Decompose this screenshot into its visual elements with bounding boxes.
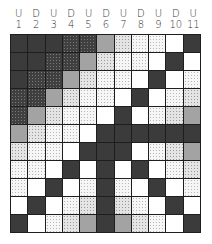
column-header: D2 [27,9,44,33]
grid-cell [11,161,27,178]
grid-cell [11,179,27,196]
column-number: 4 [68,20,74,30]
column-number: 10 [169,20,182,30]
grid-cell [46,143,62,160]
grid-cell [115,53,131,70]
grid-cell [184,197,200,214]
grid-cell [149,71,165,88]
grid-cell [28,71,44,88]
grid-cell [80,179,96,196]
grid-cell [115,125,131,142]
grid-cell [46,35,62,52]
column-number: 1 [16,20,22,30]
grid-cell [46,107,62,124]
grid-cell [11,71,27,88]
grid-cell [63,161,79,178]
grid-cell [97,197,113,214]
column-letter: U [85,9,92,19]
grid-cell [115,197,131,214]
grid-cell [166,197,182,214]
column-number: 7 [120,20,126,30]
grid-cell [63,143,79,160]
grid-cell [166,143,182,160]
column-number: 9 [155,20,161,30]
grid-cell [63,35,79,52]
grid-cell [115,161,131,178]
grid-cell [166,107,182,124]
grid-cell [63,71,79,88]
grid-cell [63,89,79,106]
grid-cell [80,197,96,214]
grid-cell [132,197,148,214]
grid-cell [184,143,200,160]
grid-cell [80,107,96,124]
grid-cell [46,125,62,142]
grid-cell [115,107,131,124]
grid-cell [46,89,62,106]
grid-cell [63,107,79,124]
grid-cell [11,125,27,142]
column-letter: D [172,9,180,19]
grid-cell [80,143,96,160]
grid-cell [184,89,200,106]
grid-cell [80,53,96,70]
grid-cell [80,215,96,232]
column-number: 8 [138,20,144,30]
column-header: D6 [97,9,114,33]
grid-cell [184,125,200,142]
grid-cell [28,125,44,142]
grid-cell [149,215,165,232]
grid-cell [46,53,62,70]
grid-cell [11,53,27,70]
grid-cell [80,35,96,52]
grid-cell [149,107,165,124]
grid-cell [46,71,62,88]
grid-cell [166,161,182,178]
grid-cell [149,143,165,160]
grid-cell [184,107,200,124]
grid-cell [97,125,113,142]
grid-cell [28,179,44,196]
grid-cell [115,179,131,196]
grid-cell [132,125,148,142]
column-header: U1 [10,9,27,33]
grid-cell [80,125,96,142]
column-letter: D [32,9,40,19]
grid-cell [184,35,200,52]
grid-cell [11,107,27,124]
column-letter: U [190,9,197,19]
grid-cell [166,35,182,52]
column-letter: U [155,9,162,19]
grid-cell [149,35,165,52]
grid-cell [63,125,79,142]
grid-cell [132,107,148,124]
grid-cell [97,53,113,70]
grid-cell [80,71,96,88]
grid-cell [28,107,44,124]
column-letter: D [67,9,75,19]
grid-cell [28,143,44,160]
grid-cell [46,215,62,232]
grid-cell [132,179,148,196]
column-number: 2 [33,20,39,30]
column-header: U7 [115,9,132,33]
grid-cell [63,197,79,214]
grid-cell [184,71,200,88]
grid-cell [63,179,79,196]
grid-cell [28,35,44,52]
grid-cell [115,89,131,106]
grid-cell [97,35,113,52]
grid-cell [132,71,148,88]
grid-cell [149,125,165,142]
grid-cell [184,53,200,70]
grid-cell [46,197,62,214]
grid-cell [97,179,113,196]
grid-cell [132,35,148,52]
grid-cell [132,143,148,160]
grid-cell [11,215,27,232]
column-letter: U [15,9,22,19]
grid-cell [97,107,113,124]
grid-cell [80,161,96,178]
column-number: 5 [85,20,91,30]
grid-cell [149,197,165,214]
